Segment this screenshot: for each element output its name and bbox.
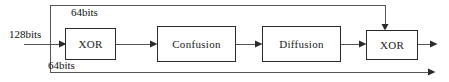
node-confusion[interactable]: Confusion	[157, 26, 236, 62]
label-input-width: 128bits	[9, 28, 41, 40]
edge-top-feedback	[50, 5, 385, 25]
label-top-branch-width: 64bits	[71, 6, 98, 18]
arrowhead-bottom-bypass	[428, 69, 436, 76]
label-bottom-branch-width: 64bits	[48, 59, 75, 71]
diagram-canvas: XOR Confusion Diffusion XOR 128bits 64bi…	[0, 0, 449, 82]
arrowhead-output	[430, 41, 438, 48]
node-xor-first[interactable]: XOR	[65, 28, 116, 60]
node-diffusion[interactable]: Diffusion	[262, 26, 341, 62]
node-xor-second[interactable]: XOR	[366, 30, 418, 60]
